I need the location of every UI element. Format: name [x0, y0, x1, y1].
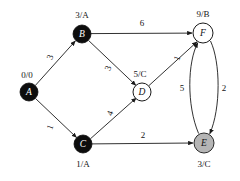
edge-weight-c-e: 2 [141, 130, 146, 140]
edge-weight-b-d: 3 [103, 64, 114, 72]
edge-f-to-e [210, 41, 218, 134]
node-a-tag: 0/0 [21, 70, 33, 80]
node-a[interactable]: A 0/0 [20, 70, 38, 101]
node-b-label: B [79, 29, 85, 39]
edge-weight-a-b: 3 [45, 53, 56, 61]
node-c-label: C [80, 139, 87, 149]
edge-e-to-f [190, 43, 199, 134]
node-e-label: E [200, 138, 207, 148]
node-f-label: F [199, 28, 206, 38]
node-c-tag: 1/A [76, 159, 90, 169]
edge-weight-e-f: 5 [180, 83, 185, 93]
edge-weight-d-f: 1 [172, 54, 183, 62]
edge-c-to-d [90, 98, 136, 139]
edge-a-to-b [35, 41, 75, 86]
node-f[interactable]: F 9/B [193, 9, 213, 43]
node-e-tag: 3/C [197, 159, 210, 169]
edge-b-to-f [91, 33, 192, 34]
node-e[interactable]: E 3/C [194, 133, 214, 169]
node-a-label: A [25, 87, 32, 97]
edge-layer [35, 33, 218, 144]
node-d-label: D [138, 87, 146, 97]
edge-weight-f-e: 2 [222, 83, 227, 93]
node-d[interactable]: D 5/C [133, 69, 151, 101]
edge-weight-b-f: 6 [140, 18, 145, 28]
graph-figure: 3 1 6 3 4 2 1 5 2 A 0/0 B 3/A C [0, 0, 240, 181]
edge-c-to-e [92, 143, 193, 144]
edge-b-to-d [89, 41, 136, 86]
edge-weight-a-c: 1 [45, 123, 56, 131]
node-c[interactable]: C 1/A [74, 135, 92, 169]
graph-canvas: 3 1 6 3 4 2 1 5 2 A 0/0 B 3/A C [0, 0, 240, 181]
node-b[interactable]: B 3/A [73, 10, 91, 43]
node-d-tag: 5/C [133, 69, 146, 79]
node-f-tag: 9/B [196, 9, 209, 19]
node-b-tag: 3/A [75, 10, 89, 20]
edge-a-to-c [36, 99, 77, 138]
edge-weight-c-d: 4 [105, 109, 116, 117]
